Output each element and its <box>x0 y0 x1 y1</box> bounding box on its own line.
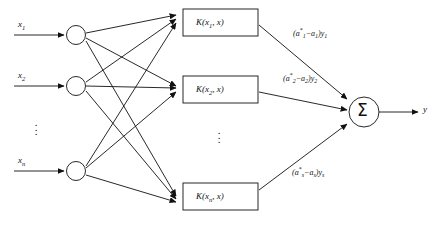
kernel-label-3: K(xn, x) <box>196 192 224 203</box>
weight-3-open: (a <box>292 168 299 177</box>
input-label-2-sub: 2 <box>22 75 25 82</box>
input-node-1 <box>67 26 86 45</box>
kernel-column-ellipsis: ... <box>213 128 225 142</box>
edge-n1-k3 <box>86 41 176 196</box>
edge-n1-k1 <box>86 15 176 33</box>
weight-1-sub3: 1 <box>324 33 327 39</box>
weight-2-open: (a <box>283 74 290 83</box>
kernel-label-2: K(x2, x) <box>196 85 224 96</box>
input-node-2 <box>67 77 86 96</box>
weight-1-open: (a <box>293 29 300 38</box>
input-label-n-sub: n <box>22 160 25 167</box>
output-label: y <box>423 105 427 114</box>
weight-2-sub3: 2 <box>314 78 317 84</box>
edge-k3-sum <box>259 124 347 190</box>
input-label-n: xn <box>18 156 25 167</box>
weight-3-minus: −a <box>304 168 313 177</box>
edge-n2-k2 <box>86 86 176 88</box>
weight-2-minus: −a <box>296 74 305 83</box>
input-label-1: x1 <box>18 20 25 31</box>
weight-3-sub3: s <box>322 172 324 178</box>
weight-label-3: (a*s−as)ys <box>292 166 324 178</box>
kernel-label-1-head: K(x <box>196 17 209 27</box>
kernel-label-3-tail: , x) <box>212 191 224 201</box>
summation-symbol: Σ <box>357 102 368 119</box>
edge-k2-sum <box>259 92 347 110</box>
weight-label-2: (a*2−a2)y2 <box>283 72 317 84</box>
edge-n2-k1 <box>86 19 176 82</box>
input-node-n <box>67 162 86 181</box>
kernel-label-1: K(x1, x) <box>196 18 224 29</box>
weight-1-minus: −a <box>306 29 315 38</box>
input-column-ellipsis: ... <box>30 120 42 134</box>
input-label-2: x2 <box>18 71 25 82</box>
weight-label-1: (a*1−a1)y1 <box>293 27 327 39</box>
kernel-label-2-head: K(x <box>196 84 209 94</box>
kernel-label-2-tail: , x) <box>212 84 224 94</box>
edge-nn-k2 <box>86 92 176 168</box>
kernel-network-diagram: x1 x2 xn ... K(x1, x) K(x2, x) K(xn, x) … <box>0 0 439 225</box>
kernel-label-3-head: K(x <box>196 191 209 201</box>
kernel-label-1-tail: , x) <box>212 17 224 27</box>
edge-nn-k3 <box>86 175 176 202</box>
input-label-1-sub: 1 <box>22 24 25 31</box>
